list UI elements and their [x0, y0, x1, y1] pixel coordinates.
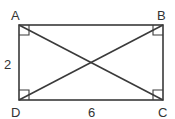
vertex-label-c: C	[158, 105, 167, 119]
side-label-bottom: 6	[88, 105, 95, 119]
vertex-label-d: D	[11, 105, 20, 119]
vertex-label-b: B	[157, 8, 166, 23]
side-label-left: 2	[4, 57, 11, 72]
vertex-label-a: A	[11, 8, 20, 23]
rectangle-diagram: A B C D 2 6	[0, 0, 175, 119]
